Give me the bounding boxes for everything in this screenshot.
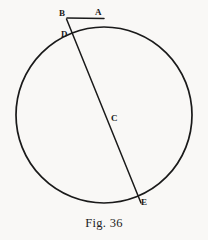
point-label-b: B [59,9,65,18]
segment-b-to-a [67,18,104,19]
geometry-drawing [0,0,208,240]
point-label-e: E [141,198,147,207]
point-label-c: C [111,114,118,123]
figure-caption: Fig. 36 [0,216,208,231]
main-circle [16,27,192,203]
point-label-a: A [95,8,102,17]
segment-b-to-e-secant [67,19,142,203]
figure-36: A B D C E Fig. 36 [0,0,208,240]
point-label-d: D [61,30,68,39]
